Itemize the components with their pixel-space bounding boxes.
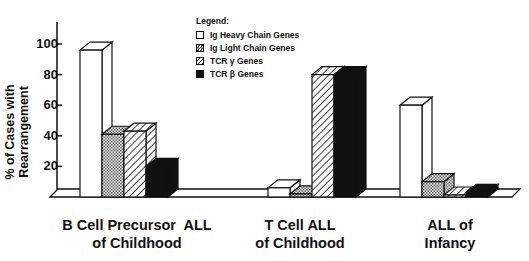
y-tick-label: 40 (30, 128, 58, 143)
black-swatch-icon (196, 70, 204, 78)
y-axis-label: % of Cases with Rearrangement (3, 37, 31, 227)
legend-item-ig-light: Ig Light Chain Genes (196, 41, 299, 54)
legend-item-tcr-gamma: TCR γ Genes (196, 54, 299, 67)
legend-item-tcr-beta: TCR β Genes (196, 67, 299, 80)
stipple-swatch-icon (196, 44, 204, 52)
y-tick-label: 60 (30, 97, 58, 112)
y-tick-label: 20 (30, 158, 58, 173)
legend-title: Legend: (196, 16, 299, 26)
legend-item-ig-heavy: Ig Heavy Chain Genes (196, 28, 299, 41)
bar (334, 67, 366, 197)
hatch-swatch-icon (196, 57, 204, 65)
bar (146, 158, 178, 197)
category-label-t-cell: T Cell ALL of Childhood (240, 216, 360, 252)
category-label-infancy: ALL of Infancy (400, 216, 500, 252)
y-tick-label: 100 (30, 36, 58, 51)
y-tick-label: 80 (30, 67, 58, 82)
white-swatch-icon (196, 31, 204, 39)
category-label-b-cell: B Cell Precursor ALL of Childhood (52, 216, 222, 252)
legend: Legend: Ig Heavy Chain Genes Ig Light Ch… (196, 16, 299, 80)
